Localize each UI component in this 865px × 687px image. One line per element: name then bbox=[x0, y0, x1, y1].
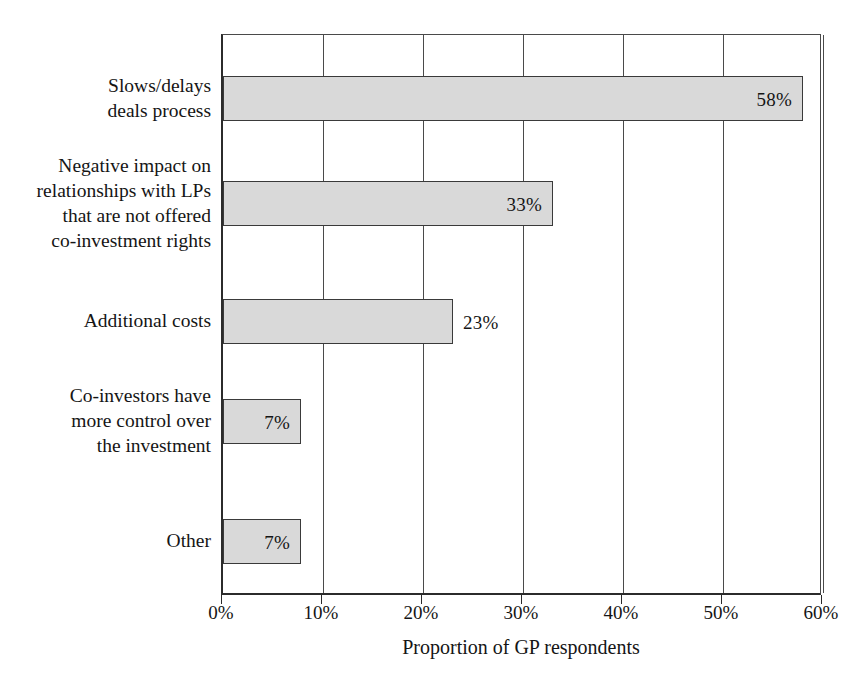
bar[interactable]: 7% bbox=[223, 399, 301, 444]
x-tick-label: 10% bbox=[281, 602, 361, 624]
x-tick-label: 50% bbox=[681, 602, 761, 624]
bar-band: 58% bbox=[223, 76, 820, 121]
bar-chart: 58%33%23%7%7% Slows/delays deals process… bbox=[0, 0, 865, 687]
bar-value-label: 7% bbox=[264, 412, 290, 431]
category-label: Slows/delays deals process bbox=[108, 73, 211, 123]
bar-band: 23% bbox=[223, 299, 820, 344]
bar-value-label: 23% bbox=[463, 312, 498, 331]
bar-band: 7% bbox=[223, 399, 820, 444]
bar[interactable]: 58% bbox=[223, 76, 803, 121]
category-label: Other bbox=[167, 528, 211, 553]
bar-value-label: 33% bbox=[507, 194, 542, 213]
bar[interactable]: 23% bbox=[223, 299, 453, 344]
category-label: Co-investors have more control over the … bbox=[70, 383, 211, 458]
x-tick-label: 0% bbox=[181, 602, 261, 624]
bar[interactable]: 33% bbox=[223, 181, 553, 226]
category-label: Additional costs bbox=[84, 308, 211, 333]
plot-area: 58%33%23%7%7% bbox=[221, 34, 821, 595]
bar[interactable]: 7% bbox=[223, 519, 301, 564]
gridline-60 bbox=[823, 35, 824, 593]
category-label: Negative impact on relationships with LP… bbox=[37, 153, 211, 253]
bar-band: 33% bbox=[223, 181, 820, 226]
bar-band: 7% bbox=[223, 519, 820, 564]
bar-value-label: 58% bbox=[757, 89, 792, 108]
bar-value-label: 7% bbox=[264, 532, 290, 551]
x-tick-label: 60% bbox=[781, 602, 861, 624]
x-axis-title: Proportion of GP respondents bbox=[221, 636, 821, 659]
x-tick-label: 40% bbox=[581, 602, 661, 624]
x-tick-label: 20% bbox=[381, 602, 461, 624]
x-tick-label: 30% bbox=[481, 602, 561, 624]
